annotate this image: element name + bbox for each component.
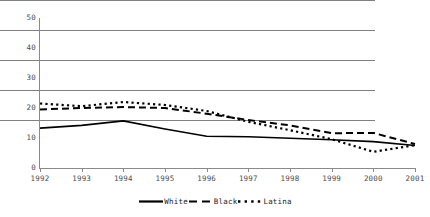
- legend-swatch-dotted-icon: [237, 197, 263, 206]
- chart-legend: White Black Latina: [0, 197, 430, 206]
- legend-label-latina: Latina: [263, 197, 291, 206]
- series-line-black: [40, 107, 415, 144]
- legend-item-latina: Latina: [237, 197, 291, 206]
- series-plot: [0, 0, 430, 217]
- legend-label-black: Black: [214, 197, 238, 206]
- chart-container: 50 40 30 20 10 0 19921993199419951996199…: [0, 0, 430, 217]
- legend-swatch-dashed-icon: [188, 197, 214, 206]
- legend-item-white: White: [138, 197, 188, 206]
- legend-label-white: White: [164, 197, 188, 206]
- legend-swatch-solid-icon: [138, 197, 164, 206]
- legend-item-black: Black: [188, 197, 238, 206]
- series-line-latina: [40, 102, 415, 152]
